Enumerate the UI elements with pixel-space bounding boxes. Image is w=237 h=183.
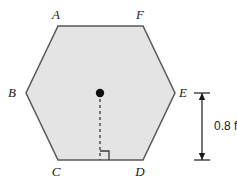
vertex-label-f: F — [135, 7, 145, 22]
vertex-label-b: B — [8, 85, 16, 100]
dimension-arrowhead-bottom — [199, 153, 205, 160]
dimension-arrowhead-top — [199, 93, 205, 100]
vertex-label-a: A — [51, 7, 60, 22]
vertex-label-c: C — [52, 164, 61, 179]
vertex-label-d: D — [134, 164, 145, 179]
hexagon-figure: A F E D C B 0.8 ft — [0, 0, 237, 183]
center-point-dot — [96, 89, 104, 97]
vertex-label-e: E — [178, 85, 187, 100]
figure-canvas: A F E D C B 0.8 ft — [0, 0, 237, 183]
dimension-value-label: 0.8 ft — [214, 119, 237, 133]
